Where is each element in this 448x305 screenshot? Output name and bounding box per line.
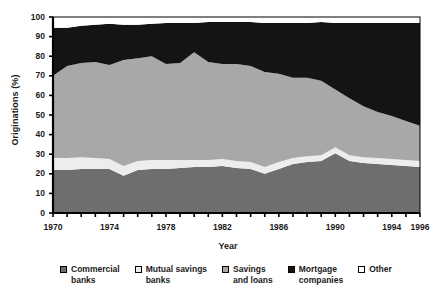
plot-area: Originations (%) 01020304050607080901001… bbox=[0, 0, 448, 262]
legend-swatch-icon bbox=[222, 266, 229, 273]
legend-item[interactable]: Mutual savings banks bbox=[135, 264, 207, 305]
legend-item[interactable]: Other bbox=[358, 264, 392, 305]
legend-item-label: Savings and loans bbox=[233, 264, 273, 286]
legend-swatch-icon bbox=[60, 266, 67, 273]
legend-item[interactable]: Savings and loans bbox=[222, 264, 273, 305]
y-axis-tick-label: 60 bbox=[19, 90, 45, 100]
x-axis-tick-label: 1990 bbox=[315, 222, 355, 232]
y-axis-tick-label: 90 bbox=[19, 31, 45, 41]
legend-item-label: Mortgage companies bbox=[299, 264, 343, 286]
legend-item-label: Commercial banks bbox=[71, 264, 120, 286]
chart-legend: Commercial banksMutual savings banksSavi… bbox=[0, 264, 448, 305]
x-axis-tick-label: 1982 bbox=[202, 222, 242, 232]
chart-figure: Originations (%) 01020304050607080901001… bbox=[0, 0, 448, 305]
legend-item[interactable]: Mortgage companies bbox=[288, 264, 343, 305]
y-axis-tick-label: 70 bbox=[19, 70, 45, 80]
legend-swatch-icon bbox=[358, 266, 365, 273]
x-axis-tick-label: 1974 bbox=[89, 222, 129, 232]
y-axis-tick-label: 50 bbox=[19, 110, 45, 120]
x-axis-label: Year bbox=[0, 241, 448, 251]
y-axis-tick-label: 30 bbox=[19, 149, 45, 159]
legend-item[interactable]: Commercial banks bbox=[60, 264, 120, 305]
x-axis-tick-label: 1978 bbox=[146, 222, 186, 232]
y-axis-tick-label: 40 bbox=[19, 129, 45, 139]
y-axis-tick-label: 100 bbox=[19, 12, 45, 22]
legend-item-label: Mutual savings banks bbox=[146, 264, 207, 286]
legend-swatch-icon bbox=[288, 266, 295, 273]
x-axis-tick-label: 1996 bbox=[400, 222, 440, 232]
x-axis-tick-label: 1986 bbox=[259, 222, 299, 232]
legend-item-label: Other bbox=[369, 264, 392, 275]
y-axis-tick-label: 20 bbox=[19, 168, 45, 178]
y-axis-tick-label: 0 bbox=[19, 208, 45, 218]
y-axis-tick-label: 80 bbox=[19, 51, 45, 61]
legend-swatch-icon bbox=[135, 266, 142, 273]
x-axis-tick-label: 1970 bbox=[33, 222, 73, 232]
x-axis-label-text: Year bbox=[210, 241, 237, 251]
y-axis-tick-label: 10 bbox=[19, 188, 45, 198]
